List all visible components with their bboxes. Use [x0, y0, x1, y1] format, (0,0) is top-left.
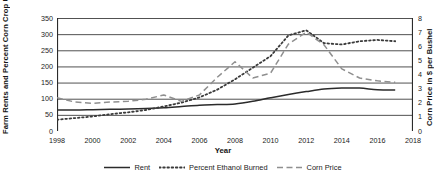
chart-legend: RentPercent Ethanol BurnedCorn Price: [0, 163, 446, 172]
y-axis-left-tick-label: 300: [31, 31, 53, 38]
y-axis-left-tick-label: 350: [31, 15, 53, 22]
y-axis-right-tick-label: 1: [418, 113, 432, 120]
y-axis-right-tick-label: 3: [418, 85, 432, 92]
y-axis-left-tick-label: 50: [31, 111, 53, 118]
legend-label: Percent Ethanol Burned: [189, 163, 267, 172]
y-axis-right-tick-label: 2: [418, 99, 432, 106]
x-axis-title: Year: [0, 146, 446, 155]
legend-swatch-dotted: [159, 164, 185, 171]
x-axis-tick-label: 2008: [219, 137, 251, 144]
series-line-corn-price: [57, 32, 395, 103]
y-axis-left-tick-label: 0: [31, 128, 53, 135]
plot-svg: [57, 18, 413, 131]
x-axis-tick-label: 1998: [41, 137, 73, 144]
y-axis-right-tick-label: 6: [418, 43, 432, 50]
y-axis-right-tick-label: 7: [418, 29, 432, 36]
x-axis-tick-label: 2012: [290, 137, 322, 144]
x-axis-tick-label: 2016: [361, 137, 393, 144]
y-axis-right-tick-label: 5: [418, 57, 432, 64]
legend-swatch-dashed: [277, 164, 303, 171]
x-axis-tick-label: 2010: [255, 137, 287, 144]
y-axis-left-tick-label: 200: [31, 63, 53, 70]
legend-swatch-solid: [104, 164, 130, 171]
y-axis-right-tick-label: 0: [418, 128, 432, 135]
x-axis-tick-label: 2018: [397, 137, 429, 144]
plot-area: [57, 18, 413, 131]
x-axis-tick-label: 2006: [183, 137, 215, 144]
x-axis-tick-label: 2000: [77, 137, 109, 144]
x-axis-tick-label: 2002: [112, 137, 144, 144]
legend-item-corn-price[interactable]: Corn Price: [277, 163, 342, 172]
legend-item-percent-ethanol-burned[interactable]: Percent Ethanol Burned: [159, 163, 267, 172]
legend-label: Corn Price: [307, 163, 342, 172]
y-axis-left-tick-label: 100: [31, 95, 53, 102]
y-axis-left-tick-label: 150: [31, 79, 53, 86]
y-axis-right-tick-label: 4: [418, 71, 432, 78]
legend-item-rent[interactable]: Rent: [104, 163, 150, 172]
legend-label: Rent: [134, 163, 150, 172]
x-axis-tick-label: 2014: [326, 137, 358, 144]
x-axis-tick-label: 2004: [148, 137, 180, 144]
y-axis-left-title: Farm Rents and Percent Corn Crop Used fo…: [1, 12, 20, 134]
series-line-percent-ethanol-burned: [57, 30, 395, 119]
y-axis-right-tick-label: 8: [418, 15, 432, 22]
chart-figure: Farm Rents and Percent Corn Crop Used fo…: [0, 0, 446, 184]
y-axis-left-tick-label: 250: [31, 47, 53, 54]
